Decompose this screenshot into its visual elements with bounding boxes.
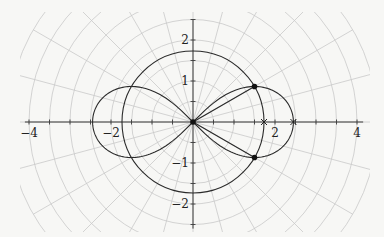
x-axis-label: 4 (353, 126, 361, 140)
point-intersection-upper (252, 84, 258, 90)
point-intersection-lower (252, 155, 258, 161)
y-axis-label: 1 (181, 74, 189, 88)
grid-radial-line (145, 122, 193, 237)
radius-segment (193, 122, 255, 158)
x-axis-label: −2 (102, 126, 120, 140)
y-axis-label: −1 (171, 156, 189, 170)
x-axis-label: 2 (271, 126, 279, 140)
grid-radial-line (101, 0, 193, 122)
point-origin (190, 119, 196, 125)
grid-radial-line (193, 122, 241, 237)
y-axis-label: −2 (171, 197, 189, 211)
grid-radial-line (193, 0, 285, 122)
polar-diagram: −4−22421−1−2 (0, 0, 384, 237)
x-axis-label: −4 (20, 126, 38, 140)
radius-segment (193, 86, 255, 122)
y-axis-label: 2 (181, 33, 189, 47)
